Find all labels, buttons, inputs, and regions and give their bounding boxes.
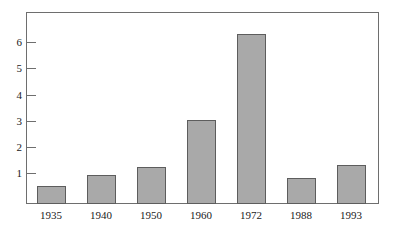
bar-series [0,0,394,236]
bar-1972 [237,34,266,204]
bar-1935 [37,186,66,204]
bar-1988 [287,178,316,204]
bar-1950 [137,167,166,204]
bar-1940 [87,175,116,204]
x-axis-label-6: 1993 [321,209,381,221]
bar-chart: 1 2 3 4 5 6 1935 1940 1950 1960 1972 198… [0,0,394,236]
bar-1993 [337,165,366,204]
bar-1960 [187,120,216,204]
